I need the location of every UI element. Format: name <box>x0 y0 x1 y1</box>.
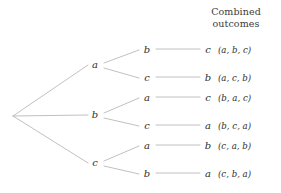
outcome-row4: (b, c, a) <box>218 121 251 131</box>
branch-b-to-a <box>104 98 139 113</box>
node-level2-row6: b <box>140 169 154 179</box>
branch-a-to-c <box>104 68 139 78</box>
branch-c-to-b <box>104 166 139 174</box>
node-level1-c: c <box>88 158 102 168</box>
outcome-row6: (c, b, a) <box>218 169 251 179</box>
branch-root-to-a <box>13 65 88 116</box>
branch-root-to-b <box>13 115 88 116</box>
node-level1-b: b <box>88 110 102 120</box>
node-level3-row6: a <box>201 169 215 179</box>
outcome-row2: (a, c, b) <box>218 73 251 83</box>
node-level3-row5: b <box>201 141 215 151</box>
node-level3-row2: b <box>201 73 215 83</box>
combined-outcomes-heading: Combined outcomes <box>196 6 276 30</box>
outcome-row3: (b, a, c) <box>218 93 251 103</box>
branch-c-to-a <box>104 146 139 161</box>
node-level3-row4: a <box>201 121 215 131</box>
branch-root-to-c <box>13 116 88 163</box>
branch-b-to-c <box>104 118 139 126</box>
outcome-row1: (a, b, c) <box>218 45 251 55</box>
node-level2-row2: c <box>140 73 154 83</box>
node-level3-row3: c <box>201 93 215 103</box>
heading-line-1: Combined <box>196 6 276 18</box>
node-level2-row5: a <box>140 141 154 151</box>
node-level1-a: a <box>88 60 102 70</box>
branch-a-to-b <box>104 50 139 63</box>
tree-diagram-figure: Combined outcomes a b c b c a c a b c b … <box>0 0 281 193</box>
outcome-row5: (c, a, b) <box>218 141 251 151</box>
heading-line-2: outcomes <box>196 18 276 30</box>
node-level2-row4: c <box>140 121 154 131</box>
node-level2-row1: b <box>140 45 154 55</box>
node-level3-row1: c <box>201 45 215 55</box>
node-level2-row3: a <box>140 93 154 103</box>
